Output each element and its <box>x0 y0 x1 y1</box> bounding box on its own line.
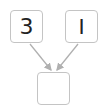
input-value-right: I <box>78 16 84 38</box>
arrow-right <box>57 44 78 70</box>
arrow-left <box>30 44 51 70</box>
output-box[interactable] <box>37 72 70 105</box>
input-value-left: 3 <box>20 16 34 38</box>
input-box-right: I <box>65 10 98 43</box>
input-box-left: 3 <box>10 10 43 43</box>
